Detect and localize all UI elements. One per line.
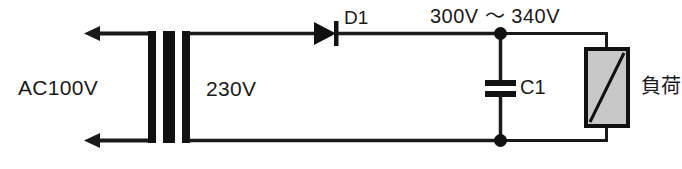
label-load: 負荷: [641, 76, 681, 96]
junction-dot-top: [494, 27, 507, 40]
label-secondary-voltage: 230V: [206, 78, 256, 99]
ac-bottom-arrow-head: [84, 133, 100, 148]
capacitor-top-plate: [485, 80, 516, 86]
label-capacitor-c1: C1: [520, 77, 546, 97]
ac-top-arrow-head: [84, 26, 100, 41]
label-diode-d1: D1: [344, 8, 368, 27]
transformer-core-bar: [163, 31, 175, 143]
diode-cathode-bar: [334, 21, 339, 46]
load-block: [586, 49, 628, 126]
circuit-diagram: AC100V 230V D1 300V 〜 340V C1 負荷: [0, 0, 682, 169]
circuit-schematic-svg: [0, 0, 682, 169]
junction-dot-bottom: [494, 134, 507, 147]
capacitor-c1: [485, 34, 516, 141]
label-rail-voltage: 300V 〜 340V: [430, 6, 560, 26]
transformer: [148, 31, 190, 143]
label-ac-input: AC100V: [18, 77, 98, 98]
diode-d1: [314, 21, 339, 46]
transformer-primary-bar: [148, 31, 156, 143]
transformer-secondary-bar: [182, 31, 190, 143]
diode-triangle: [314, 22, 336, 45]
